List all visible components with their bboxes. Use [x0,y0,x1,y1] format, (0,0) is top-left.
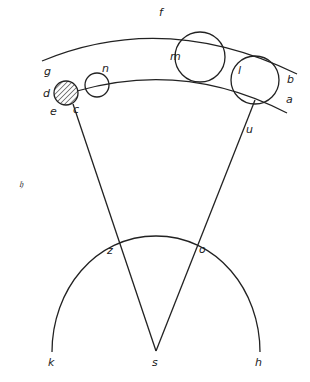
label-f: f [159,6,165,19]
label-k: k [48,356,55,369]
label-c: c [73,103,79,116]
circle-m [175,32,225,82]
label-e: e [50,105,57,118]
circle-n [85,73,109,97]
line-s-u [156,118,248,351]
label-h: h [255,356,262,369]
diagram-canvas: f g b a d e c n m l u z o s k h 𝔥 [0,0,310,382]
label-m: m [170,50,181,63]
label-d: d [43,87,51,100]
label-s: s [152,356,158,369]
line-c-s [73,104,156,351]
label-b: b [287,73,294,86]
label-o: o [199,243,206,256]
label-a: a [286,93,293,106]
label-u: u [246,123,253,136]
label-g: g [44,65,51,78]
label-z: z [106,244,113,257]
lower-arc-kzoh [52,236,260,352]
hatched-circle-dec [54,81,78,105]
marginal-glyph: 𝔥 [19,179,24,189]
label-l: l [238,64,241,77]
label-n: n [102,62,109,75]
